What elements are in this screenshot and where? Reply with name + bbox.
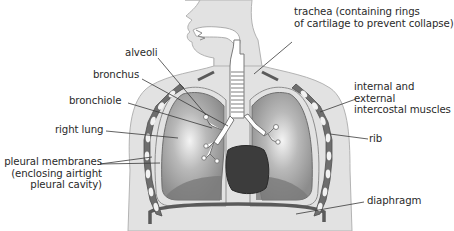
label-pleural-membranes: pleural membranes (enclosing airtight pl… — [0, 156, 102, 191]
label-alveoli: alveoli — [125, 47, 158, 59]
label-right-lung: right lung — [55, 124, 103, 136]
label-trachea: trachea (containing rings of cartilage t… — [294, 6, 454, 29]
label-bronchiole: bronchiole — [69, 95, 121, 107]
heart — [226, 146, 269, 194]
label-rib: rib — [369, 133, 382, 145]
head — [185, 0, 262, 66]
label-intercostal-muscles: internal and external intercostal muscle… — [354, 81, 451, 116]
label-bronchus: bronchus — [93, 69, 139, 81]
label-diaphragm: diaphragm — [367, 195, 421, 207]
